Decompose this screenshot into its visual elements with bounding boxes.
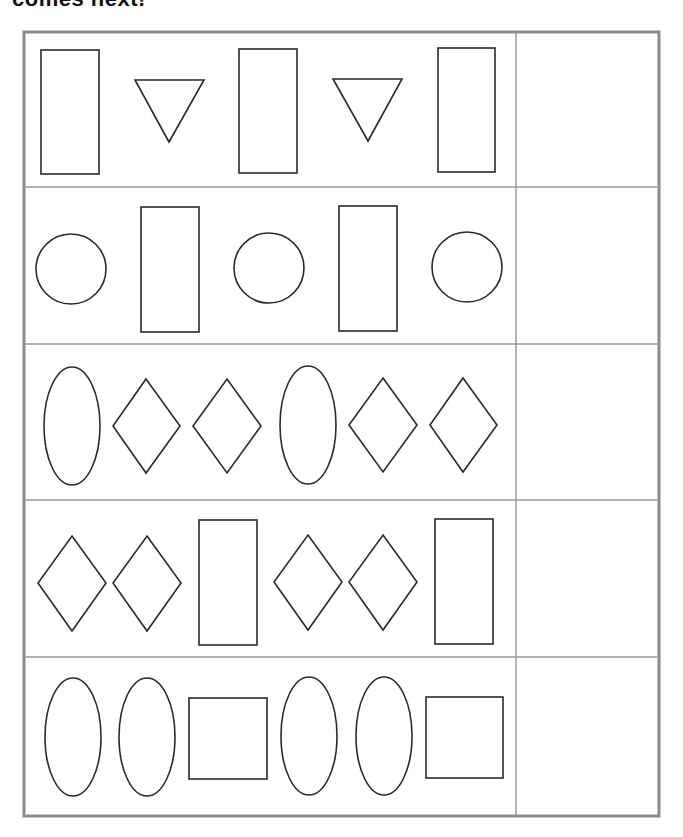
circle-shape <box>432 232 502 302</box>
diamond-shape <box>38 536 106 631</box>
rectangle-shape <box>199 520 257 645</box>
pattern-row-5 <box>45 677 503 796</box>
ellipse-shape <box>280 366 336 484</box>
diamond-shape <box>193 379 261 473</box>
rectangle-shape <box>239 49 297 173</box>
answer-cell-row-4[interactable] <box>518 502 657 656</box>
diamond-shape <box>274 535 342 630</box>
square-shape <box>189 698 267 779</box>
diamond-shape <box>113 536 181 631</box>
answer-cell-row-2[interactable] <box>518 189 657 343</box>
diamond-shape <box>349 535 417 630</box>
answer-cell-row-3[interactable] <box>518 346 657 499</box>
triangle-down-shape <box>135 80 204 142</box>
answer-cell-row-1[interactable] <box>518 34 657 186</box>
rectangle-shape <box>41 50 99 174</box>
ellipse-shape <box>45 678 101 796</box>
rectangle-shape <box>141 207 199 332</box>
ellipse-shape <box>281 677 337 795</box>
triangle-down-shape <box>333 79 402 141</box>
diamond-shape <box>113 379 180 473</box>
rectangle-shape <box>339 206 397 331</box>
rectangle-shape <box>435 519 493 644</box>
diamond-shape <box>349 378 417 472</box>
pattern-row-4 <box>38 519 493 645</box>
ellipse-shape <box>44 367 100 485</box>
ellipse-shape <box>356 677 412 795</box>
pattern-row-3 <box>44 366 497 485</box>
diamond-shape <box>430 378 497 472</box>
square-shape <box>426 697 503 778</box>
pattern-row-2 <box>36 206 502 332</box>
rectangle-shape <box>438 48 495 172</box>
circle-shape <box>36 234 106 304</box>
ellipse-shape <box>119 678 175 796</box>
pattern-row-1 <box>41 48 495 174</box>
circle-shape <box>234 233 304 303</box>
answer-cell-row-5[interactable] <box>518 659 657 814</box>
